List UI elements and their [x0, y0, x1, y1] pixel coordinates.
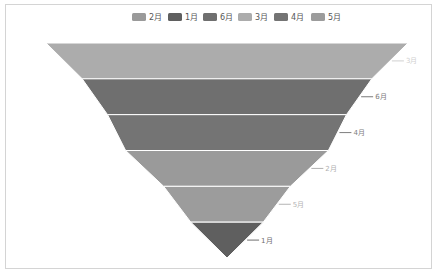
legend-swatch	[168, 13, 182, 21]
legend: 2月1月6月3月4月5月	[132, 13, 341, 22]
legend-item[interactable]: 3月	[238, 13, 268, 22]
legend-swatch	[132, 13, 146, 21]
funnel-layer[interactable]	[82, 79, 372, 115]
funnel-chart: 2月1月6月3月4月5月 3月6月4月2月5月1月	[0, 0, 435, 275]
legend-label: 6月	[220, 13, 233, 22]
funnel-layer[interactable]	[126, 151, 329, 187]
funnel-label: 1月	[261, 237, 272, 245]
funnel-label: 4月	[353, 129, 364, 137]
legend-item[interactable]: 6月	[203, 13, 233, 22]
legend-label: 1月	[185, 13, 198, 22]
funnel-layer[interactable]	[108, 115, 347, 151]
legend-label: 2月	[149, 13, 162, 22]
funnel-layers	[46, 43, 408, 258]
funnel-label: 3月	[406, 57, 417, 65]
legend-item[interactable]: 5月	[311, 13, 341, 22]
funnel-label: 6月	[375, 93, 386, 101]
legend-swatch	[203, 13, 217, 21]
legend-label: 3月	[255, 13, 268, 22]
legend-label: 5月	[328, 13, 341, 22]
legend-swatch	[274, 13, 288, 21]
funnel-label: 2月	[325, 165, 336, 173]
legend-label: 4月	[291, 13, 304, 22]
legend-swatch	[238, 13, 252, 21]
legend-item[interactable]: 1月	[168, 13, 198, 22]
funnel-layer[interactable]	[46, 43, 408, 79]
funnel-label: 5月	[293, 201, 304, 209]
legend-item[interactable]: 2月	[132, 13, 162, 22]
funnel-layer[interactable]	[164, 186, 291, 222]
legend-item[interactable]: 4月	[274, 13, 304, 22]
legend-swatch	[311, 13, 325, 21]
